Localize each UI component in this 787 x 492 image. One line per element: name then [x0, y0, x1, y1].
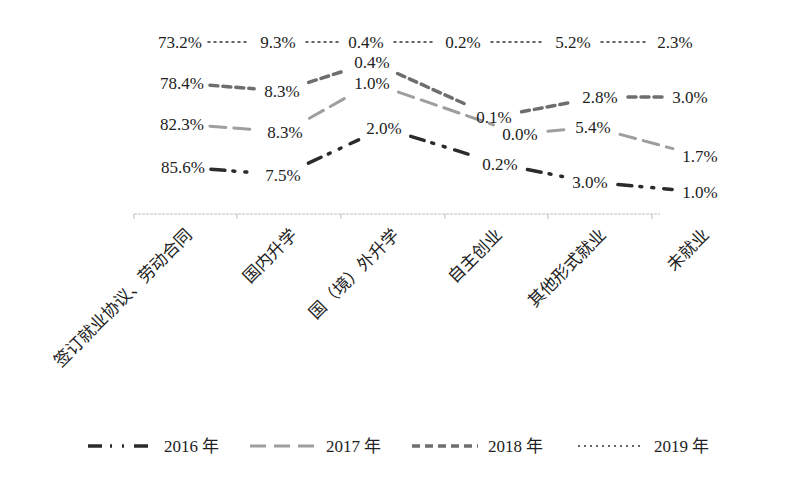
- data-label: 85.6%: [161, 158, 205, 177]
- legend-label: 2017 年: [326, 437, 381, 456]
- data-label: 1.0%: [682, 183, 717, 202]
- legend-item-4[interactable]: 2019 年: [578, 437, 709, 456]
- data-label: 8.3%: [264, 82, 299, 101]
- line-segment: [211, 169, 255, 173]
- category-label: 国（境）外升学: [305, 225, 403, 323]
- legend-item-1[interactable]: 2016 年: [88, 437, 219, 456]
- data-labels: 85.6%7.5%2.0%0.2%3.0%1.0%82.3%8.3%1.0%0.…: [158, 33, 718, 202]
- line-segment: [309, 71, 346, 83]
- data-label: 7.5%: [265, 166, 300, 185]
- data-label: 78.4%: [160, 74, 204, 93]
- line-segment: [411, 136, 474, 155]
- line-segment: [548, 130, 565, 132]
- line-segment: [618, 185, 672, 190]
- data-label: 73.2%: [158, 33, 202, 52]
- x-axis: [134, 214, 660, 219]
- line-segment: [522, 102, 573, 112]
- legend-item-3[interactable]: 2018 年: [412, 437, 543, 456]
- category-label: 自主创业: [444, 225, 506, 287]
- line-segment: [210, 85, 254, 89]
- data-label: 3.0%: [672, 88, 707, 107]
- legend-label: 2019 年: [654, 437, 709, 456]
- line-segment: [398, 74, 469, 106]
- data-label: 0.1%: [476, 108, 511, 127]
- category-label: 签订就业协议、劳动合同: [50, 225, 196, 371]
- data-label: 2.0%: [366, 119, 401, 138]
- data-label: 9.3%: [260, 33, 295, 52]
- data-label: 0.0%: [502, 125, 537, 144]
- legend-label: 2018 年: [488, 437, 543, 456]
- data-label: 0.2%: [445, 33, 480, 52]
- data-label: 82.3%: [160, 115, 204, 134]
- category-labels: 签订就业协议、劳动合同国内升学国（境）外升学自主创业其他形式就业未就业: [50, 225, 713, 371]
- data-label: 3.0%: [572, 173, 607, 192]
- legend-label: 2016 年: [164, 437, 219, 456]
- line-segment: [620, 134, 673, 148]
- legend: 2016 年2017 年2018 年2019 年: [88, 437, 709, 456]
- data-label: 0.4%: [348, 33, 383, 52]
- data-label: 5.2%: [555, 33, 590, 52]
- data-label: 2.8%: [582, 88, 617, 107]
- category-label: 国内升学: [239, 225, 301, 287]
- data-label: 8.3%: [267, 123, 302, 142]
- line-segment: [527, 169, 562, 176]
- line-segment: [210, 126, 257, 130]
- line-chart: 85.6%7.5%2.0%0.2%3.0%1.0%82.3%8.3%1.0%0.…: [0, 0, 787, 492]
- line-segment: [309, 97, 347, 119]
- data-label: 2.3%: [657, 33, 692, 52]
- data-label: 0.2%: [482, 155, 517, 174]
- category-label: 未就业: [663, 225, 712, 274]
- line-segment: [308, 140, 358, 163]
- data-label: 5.4%: [575, 118, 610, 137]
- data-label: 0.4%: [354, 53, 389, 72]
- data-label: 1.0%: [354, 74, 389, 93]
- legend-item-2[interactable]: 2017 年: [250, 437, 381, 456]
- category-label: 其他形式就业: [524, 225, 610, 311]
- data-label: 1.7%: [682, 147, 717, 166]
